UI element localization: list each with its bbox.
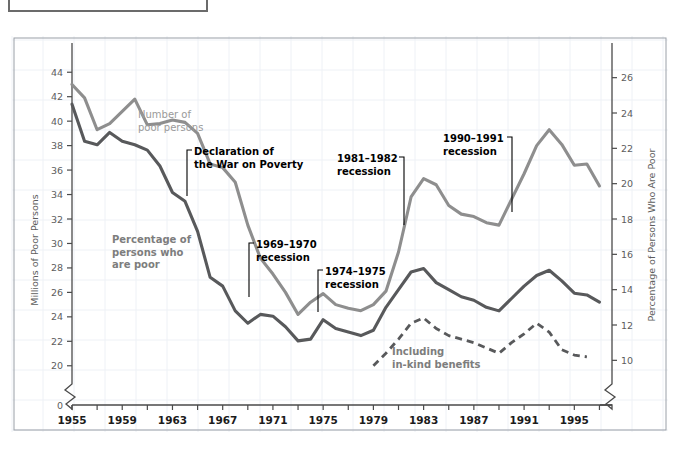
bottom-axis-tick-label: 1959 [108, 414, 137, 426]
annotation-label-percentage-who-are-poor: persons who [112, 247, 184, 258]
annotation-number-of-poor-persons: Number ofpoor persons [138, 109, 203, 133]
right-axis-tick-label: 14 [621, 284, 633, 295]
left-axis-tick-label: 30 [51, 238, 63, 249]
left-axis-tick-label: 40 [51, 116, 63, 127]
bottom-axis-tick-label: 1983 [409, 414, 438, 426]
annotations-group: Number ofpoor personsPercentage ofperson… [112, 109, 512, 370]
left-axis-tick-label: 32 [51, 214, 63, 225]
right-axis-tick-label: 26 [621, 72, 633, 83]
annotation-leader-recession-1981-1982 [399, 157, 404, 225]
left-axis-tick-label: 34 [51, 189, 63, 200]
background-grid [12, 36, 668, 432]
annotation-declaration-war-on-poverty: Declaration ofthe War on Poverty [187, 146, 304, 196]
left-axis-tick-label: 28 [51, 262, 63, 273]
bottom-axis-tick-label: 1963 [158, 414, 187, 426]
annotation-leader-declaration-war-on-poverty [187, 150, 192, 196]
annotation-including-in-kind-benefits: Includingin-kind benefits [392, 346, 481, 370]
annotation-label-declaration-war-on-poverty: Declaration of [194, 146, 274, 157]
bottom-axis-tick-label: 1971 [258, 414, 287, 426]
annotation-label-recession-1981-1982: recession [337, 166, 391, 177]
annotation-label-percentage-who-are-poor: Percentage of [112, 234, 192, 245]
left-axis-tick-label: 44 [51, 67, 63, 78]
annotation-label-recession-1981-1982: 1981–1982 [337, 153, 398, 164]
left-axis-tick-label: 38 [51, 140, 63, 151]
annotation-leader-recession-1969-1970 [249, 243, 254, 297]
right-axis-tick-label: 18 [621, 214, 633, 225]
bottom-axis: 1955195919631967197119751979198319871991… [57, 405, 612, 426]
right-axis-tick-label: 22 [621, 143, 633, 154]
annotation-label-recession-1974-1975: 1974–1975 [325, 266, 386, 277]
left-axis: 202224262830323436384042440Millions of P… [29, 43, 75, 411]
bottom-axis-tick-label: 1995 [560, 414, 589, 426]
left-axis-tick-label: 20 [51, 360, 63, 371]
right-axis-tick-label: 20 [621, 178, 633, 189]
right-axis-tick-label: 24 [621, 108, 633, 119]
chart-svg: 202224262830323436384042440Millions of P… [0, 0, 680, 450]
annotation-label-declaration-war-on-poverty: the War on Poverty [194, 159, 304, 170]
right-axis: 101214161820222426Percentage of Persons … [600, 43, 657, 409]
bottom-axis-tick-label: 1991 [509, 414, 538, 426]
annotation-label-number-of-poor-persons: Number of [138, 109, 191, 120]
annotation-label-including-in-kind-benefits: in-kind benefits [392, 359, 481, 370]
annotation-label-recession-1974-1975: recession [325, 279, 379, 290]
bottom-axis-tick-label: 1967 [208, 414, 237, 426]
bottom-axis-tick-label: 1955 [57, 414, 86, 426]
left-axis-tick-label: 24 [51, 311, 63, 322]
annotation-label-recession-1990-1991: 1990–1991 [443, 133, 504, 144]
annotation-label-recession-1969-1970: recession [256, 252, 310, 263]
left-axis-tick-label: 22 [51, 336, 63, 347]
right-axis-tick-label: 16 [621, 249, 633, 260]
annotation-label-recession-1990-1991: recession [443, 146, 497, 157]
left-axis-tick-label: 26 [51, 287, 63, 298]
bottom-axis-tick-label: 1975 [309, 414, 338, 426]
left-axis-zero-label: 0 [57, 400, 63, 411]
poverty-chart: 202224262830323436384042440Millions of P… [0, 0, 680, 450]
annotation-label-number-of-poor-persons: poor persons [138, 122, 203, 133]
annotation-percentage-who-are-poor: Percentage ofpersons whoare poor [112, 234, 192, 270]
left-axis-tick-label: 42 [51, 91, 63, 102]
annotation-label-recession-1969-1970: 1969–1970 [256, 239, 317, 250]
right-axis-tick-label: 10 [621, 355, 633, 366]
bottom-axis-tick-label: 1979 [359, 414, 388, 426]
annotation-label-including-in-kind-benefits: Including [392, 346, 444, 357]
left-axis-title: Millions of Poor Persons [29, 194, 40, 306]
annotation-recession-1981-1982: 1981–1982recession [337, 153, 404, 225]
annotation-label-percentage-who-are-poor: are poor [112, 259, 160, 270]
right-axis-tick-label: 12 [621, 320, 633, 331]
left-axis-tick-label: 36 [51, 165, 63, 176]
annotation-recession-1974-1975: 1974–1975recession [318, 266, 386, 312]
right-axis-title: Percentage of Persons Who Are Poor [646, 149, 657, 322]
bottom-axis-tick-label: 1987 [459, 414, 488, 426]
